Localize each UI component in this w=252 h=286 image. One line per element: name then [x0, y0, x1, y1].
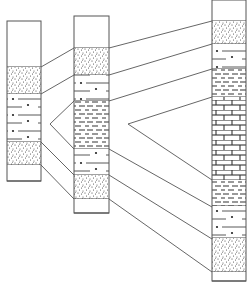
layer-sandstone: [7, 67, 41, 94]
layer-blank: [7, 165, 41, 181]
correlation-line: [109, 21, 212, 48]
layer-sandstone: [74, 175, 109, 199]
stratigraphic-column-col3: [212, 0, 246, 281]
layer-siltstone: [7, 94, 41, 142]
layer-blank: [212, 0, 246, 21]
layer-sandstone: [7, 142, 41, 165]
correlation-line: [109, 69, 212, 101]
layer-sandstone: [74, 48, 109, 75]
correlation-line: [50, 124, 74, 149]
correlation-line: [41, 48, 74, 67]
layer-mudstone: [212, 69, 246, 97]
stratigraphic-columns: [7, 0, 246, 281]
layer-blank: [212, 272, 246, 281]
stratigraphic-column-col1: [7, 21, 41, 181]
correlation-line: [128, 124, 212, 180]
layer-sandstone: [212, 21, 246, 44]
layer-mudstone: [212, 180, 246, 206]
correlation-line: [128, 97, 212, 124]
correlation-line: [109, 199, 212, 272]
correlation-line: [41, 75, 74, 94]
layer-blank: [7, 21, 41, 67]
stratigraphic-correlation-diagram: [0, 0, 252, 286]
layer-siltstone: [74, 149, 109, 175]
layer-blank: [74, 16, 109, 48]
correlation-line: [50, 101, 74, 124]
layer-blank: [74, 199, 109, 213]
correlation-line: [109, 149, 212, 207]
correlation-line: [109, 175, 212, 239]
layer-sandstone: [212, 238, 246, 272]
layer-siltstone: [212, 44, 246, 69]
correlation-line: [109, 44, 212, 75]
layer-siltstone: [212, 206, 246, 238]
stratigraphic-column-col2: [74, 16, 109, 213]
layer-siltstone: [74, 75, 109, 101]
layer-limestone: [212, 97, 246, 180]
correlation-lines: [41, 21, 212, 272]
layer-mudstone: [74, 101, 109, 149]
